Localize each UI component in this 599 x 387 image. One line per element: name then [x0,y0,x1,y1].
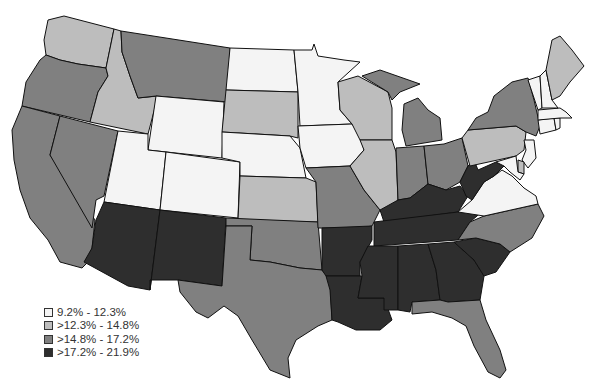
legend-label: >12.3% - 14.8% [57,319,139,332]
legend-swatch-c4 [44,348,53,357]
legend-swatch-c2 [44,321,53,330]
legend-item: >14.8% - 17.2% [44,333,139,346]
state-MA [538,108,572,120]
state-KS [238,176,318,222]
legend-swatch-c1 [44,308,53,317]
state-WY [148,96,224,158]
legend-label: >17.2% - 21.9% [57,346,139,359]
state-MT [121,31,230,102]
legend-item: >12.3% - 14.8% [44,319,139,332]
legend-item: 9.2% - 12.3% [44,306,139,319]
state-ME [546,36,584,100]
legend-label: 9.2% - 12.3% [57,306,126,319]
state-NY [468,78,540,136]
state-CT [538,118,556,134]
state-SD [222,90,298,138]
legend-item: >17.2% - 21.9% [44,346,139,359]
state-NM [150,210,226,290]
legend-label: >14.8% - 17.2% [57,333,139,346]
state-FL [412,300,506,378]
map-legend: 9.2% - 12.3% >12.3% - 14.8% >14.8% - 17.… [44,306,139,359]
state-ND [226,48,298,92]
legend-swatch-c3 [44,335,53,344]
state-CO [160,152,240,218]
state-AZ [84,202,160,290]
